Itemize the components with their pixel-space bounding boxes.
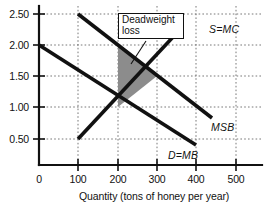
demand-curve-label: D=MB (168, 150, 198, 161)
y-tick-label-2-00: 2.00 (0, 40, 29, 51)
x-tick-label-0: 0 (24, 174, 54, 185)
y-tick-label-1-00: 1.00 (0, 102, 29, 113)
supply-curve-label: S=MC (209, 24, 239, 35)
x-tick-label-100: 100 (63, 174, 93, 185)
x-tick-label-300: 300 (142, 174, 172, 185)
deadweight-loss-callout-line1: Deadweight (122, 15, 181, 26)
x-tick-label-400: 400 (181, 174, 211, 185)
y-tick-label-2-50: 2.50 (0, 9, 29, 20)
x-axis-title: Quantity (tons of honey per year) (79, 191, 229, 202)
x-tick-label-500: 500 (221, 174, 251, 185)
y-tick-label-0-50: 0.50 (0, 134, 29, 145)
y-tick-label-1-50: 1.50 (0, 71, 29, 82)
msb-curve-label: MSB (211, 122, 234, 133)
deadweight-loss-callout-line2: loss (122, 26, 181, 37)
x-tick-label-200: 200 (103, 174, 133, 185)
deadweight-loss-callout: Deadweight loss (118, 13, 184, 39)
economics-deadweight-loss-chart: 2.50 2.00 1.50 1.00 0.50 0 100 200 300 4… (0, 0, 269, 208)
